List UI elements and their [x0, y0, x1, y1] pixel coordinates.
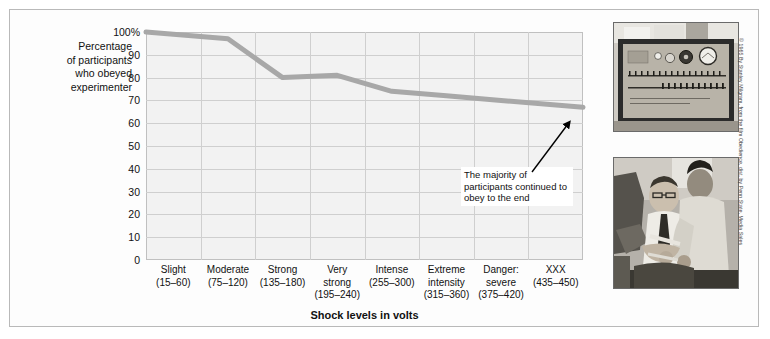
photo-credit: © 1965 By Stanley Milgram, from the film… [738, 38, 744, 245]
y-tick-label: 30 [100, 186, 140, 198]
y-axis-tick-labels: 100%9080706050403020100 [98, 32, 140, 260]
obedience-line-series [146, 32, 583, 260]
y-tick-label: 80 [100, 72, 140, 84]
y-tick-label: 100% [100, 26, 140, 38]
y-tick-label: 40 [100, 163, 140, 175]
shock-generator-photo [613, 22, 739, 132]
x-axis-title: Shock levels in volts [146, 309, 583, 321]
x-tick-label-line: (195–240) [300, 289, 374, 302]
y-tick-label: 70 [100, 94, 140, 106]
y-tick-label: 60 [100, 117, 140, 129]
plot-area [146, 32, 583, 260]
x-tick-label-line: (375–420) [464, 289, 538, 302]
x-tick-label: XXX(435–450) [519, 264, 593, 289]
annotation-arrow-icon [520, 118, 580, 176]
y-tick-label: 10 [100, 231, 140, 243]
y-tick-label: 20 [100, 208, 140, 220]
figure-root: Percentageof participantswho obeyedexper… [0, 0, 770, 339]
x-tick-label-line: XXX [519, 264, 593, 277]
x-tick-label-line: (435–450) [519, 277, 593, 290]
y-tick-label: 0 [100, 254, 140, 266]
y-tick-label: 50 [100, 140, 140, 152]
learner-strapped-photo [613, 157, 739, 289]
x-axis-tick-labels: Slight(15–60)Moderate(75–120)Strong(135–… [146, 264, 583, 308]
y-tick-label: 90 [100, 49, 140, 61]
